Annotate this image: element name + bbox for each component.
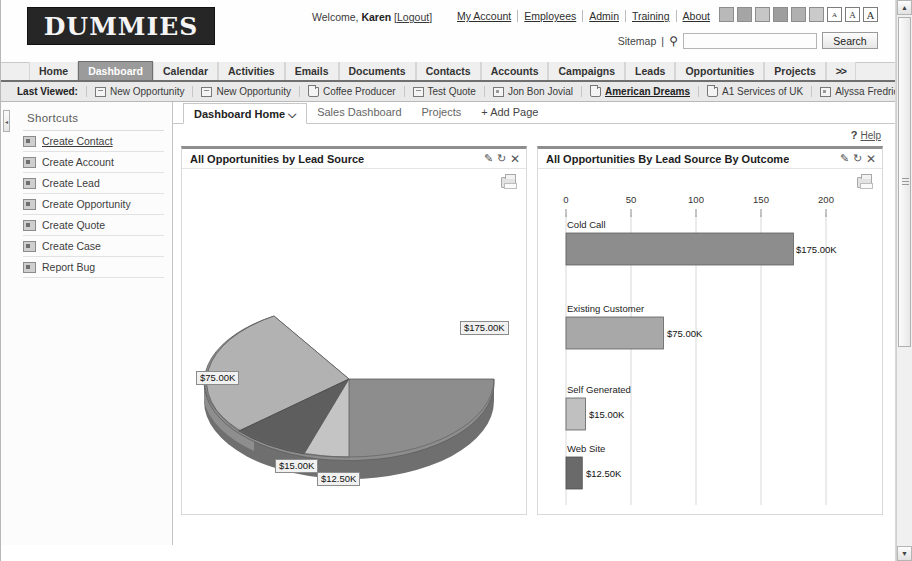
top-link-about[interactable]: About: [677, 10, 716, 22]
sitemap-separator: |: [661, 35, 664, 47]
nav-tab-dashboard[interactable]: Dashboard: [78, 61, 153, 80]
last-viewed-item[interactable]: Test Quote: [404, 86, 484, 97]
close-icon[interactable]: ✕: [510, 153, 520, 165]
case-icon: [23, 241, 36, 252]
last-viewed-item[interactable]: A1 Services of UK: [698, 86, 811, 97]
edit-icon[interactable]: ✎: [840, 153, 849, 164]
last-viewed-item[interactable]: New Opportunity: [192, 86, 298, 97]
welcome-prefix: Welcome,: [312, 11, 359, 23]
nav-tab-contacts[interactable]: Contacts: [416, 62, 481, 80]
logout-link[interactable]: Logout: [397, 11, 429, 23]
dashboard-main: Dashboard Home ⌵ Sales Dashboard Project…: [173, 102, 895, 545]
quote-icon: [413, 87, 424, 97]
top-link-employees[interactable]: Employees: [518, 10, 583, 22]
scrollbar-thumb[interactable]: [898, 17, 911, 347]
sidebar-item-create-case[interactable]: Create Case: [23, 236, 164, 257]
nav-tab-projects[interactable]: Projects: [764, 62, 825, 80]
font-size-medium-button[interactable]: A: [845, 7, 860, 22]
scroll-up-arrow[interactable]: ▲: [897, 0, 912, 15]
sitemap-link[interactable]: Sitemap: [618, 35, 657, 47]
account-icon: [590, 87, 601, 97]
opportunity-icon: [95, 87, 106, 97]
theme-swatch-4[interactable]: [773, 7, 788, 22]
bar-category-label: Existing Customer: [567, 303, 644, 314]
top-link-training[interactable]: Training: [626, 10, 677, 22]
last-viewed-item[interactable]: New Opportunity: [86, 86, 192, 97]
theme-swatch-3[interactable]: [755, 7, 770, 22]
dashboard-tabs: Dashboard Home ⌵ Sales Dashboard Project…: [173, 102, 895, 124]
nav-tab-activities[interactable]: Activities: [218, 62, 285, 80]
last-viewed-item[interactable]: Alyssa Fredricks: [811, 86, 895, 97]
vertical-scrollbar[interactable]: ▲ ▼: [896, 0, 912, 561]
refresh-icon[interactable]: ↻: [497, 153, 506, 164]
nav-tab-campaigns[interactable]: Campaigns: [548, 62, 625, 80]
tab-dashboard-home[interactable]: Dashboard Home ⌵: [183, 103, 307, 124]
opportunity-icon: [201, 87, 212, 97]
content-area: ◂ Shortcuts Create Contact Create Accoun…: [1, 102, 895, 545]
scrollbar-grip: [902, 178, 909, 186]
theme-swatch-6[interactable]: [809, 7, 824, 22]
sidebar-item-create-contact[interactable]: Create Contact: [23, 131, 164, 152]
search-icon[interactable]: ⚲: [669, 34, 678, 48]
last-viewed-item[interactable]: Coffee Producer: [299, 86, 404, 97]
sidebar-item-label: Create Lead: [42, 177, 100, 189]
last-viewed-bar: Last Viewed: New Opportunity New Opportu…: [1, 82, 895, 102]
add-page-button[interactable]: + Add Page: [471, 102, 548, 123]
theme-swatch-2[interactable]: [737, 7, 752, 22]
font-size-large-button[interactable]: A: [863, 7, 878, 22]
search-button[interactable]: Search: [822, 32, 878, 49]
nav-tab-opportunities[interactable]: Opportunities: [675, 62, 764, 80]
last-viewed-item-label: Jon Bon Jovial: [508, 86, 573, 97]
bar-tick-0: 0: [563, 194, 568, 205]
sidebar-item-create-quote[interactable]: Create Quote: [23, 215, 164, 236]
last-viewed-item-label: New Opportunity: [110, 86, 184, 97]
contact-icon: [493, 87, 504, 97]
edit-icon[interactable]: ✎: [484, 153, 493, 164]
top-nav-links: My Account Employees Admin Training Abou…: [451, 10, 716, 22]
chevron-down-icon[interactable]: ⌵: [288, 108, 296, 120]
close-icon[interactable]: ✕: [866, 153, 876, 165]
welcome-text: Welcome, Karen [Logout]: [312, 11, 432, 23]
sidebar-collapse-handle[interactable]: ◂: [3, 110, 10, 132]
sidebar-item-create-account[interactable]: Create Account: [23, 152, 164, 173]
nav-tab-more[interactable]: >>: [826, 62, 856, 80]
account-icon: [707, 87, 718, 97]
bar-category-label: Self Generated: [567, 384, 631, 395]
panel-title: All Opportunities by Lead Source: [190, 153, 364, 165]
bug-icon: [23, 262, 36, 273]
help-link[interactable]: Help: [860, 130, 881, 141]
main-nav-tabs: Home Dashboard Calendar Activities Email…: [1, 62, 895, 82]
nav-tab-accounts[interactable]: Accounts: [481, 62, 549, 80]
pie-label-cold-call: $175.00K: [460, 321, 509, 335]
last-viewed-item-label: Alyssa Fredricks: [835, 86, 895, 97]
bar-self-generated: [566, 398, 586, 430]
sidebar-item-create-opportunity[interactable]: Create Opportunity: [23, 194, 164, 215]
refresh-icon[interactable]: ↻: [853, 153, 862, 164]
scroll-down-arrow[interactable]: ▼: [897, 546, 912, 561]
page-body: DUMMIES Welcome, Karen [Logout] My Accou…: [0, 0, 896, 561]
top-link-my-account[interactable]: My Account: [451, 10, 518, 22]
theme-swatch-5[interactable]: [791, 7, 806, 22]
panel-title: All Opportunities By Lead Source By Outc…: [546, 153, 789, 165]
panel-opportunities-by-lead-source-by-outcome: All Opportunities By Lead Source By Outc…: [537, 146, 883, 515]
tab-sales-dashboard[interactable]: Sales Dashboard: [307, 102, 411, 123]
last-viewed-item-current[interactable]: American Dreams: [581, 86, 698, 97]
font-size-small-button[interactable]: A: [827, 7, 842, 22]
nav-tab-calendar[interactable]: Calendar: [153, 62, 218, 80]
search-input[interactable]: [683, 33, 817, 49]
pie-label-existing-customer: $75.00K: [196, 371, 239, 385]
nav-tab-home[interactable]: Home: [29, 62, 78, 80]
tab-projects[interactable]: Projects: [412, 102, 472, 123]
theme-swatch-1[interactable]: [719, 7, 734, 22]
nav-tab-emails[interactable]: Emails: [285, 62, 339, 80]
pie-label-self-generated: $15.00K: [275, 459, 318, 473]
sidebar-item-create-lead[interactable]: Create Lead: [23, 173, 164, 194]
bar-tick-50: 50: [626, 194, 637, 205]
sidebar-item-report-bug[interactable]: Report Bug: [23, 257, 164, 278]
nav-tab-leads[interactable]: Leads: [625, 62, 675, 80]
last-viewed-item[interactable]: Jon Bon Jovial: [484, 86, 581, 97]
top-link-admin[interactable]: Admin: [583, 10, 626, 22]
site-logo: DUMMIES: [27, 7, 215, 45]
sidebar-item-label: Create Opportunity: [42, 198, 131, 210]
nav-tab-documents[interactable]: Documents: [339, 62, 416, 80]
